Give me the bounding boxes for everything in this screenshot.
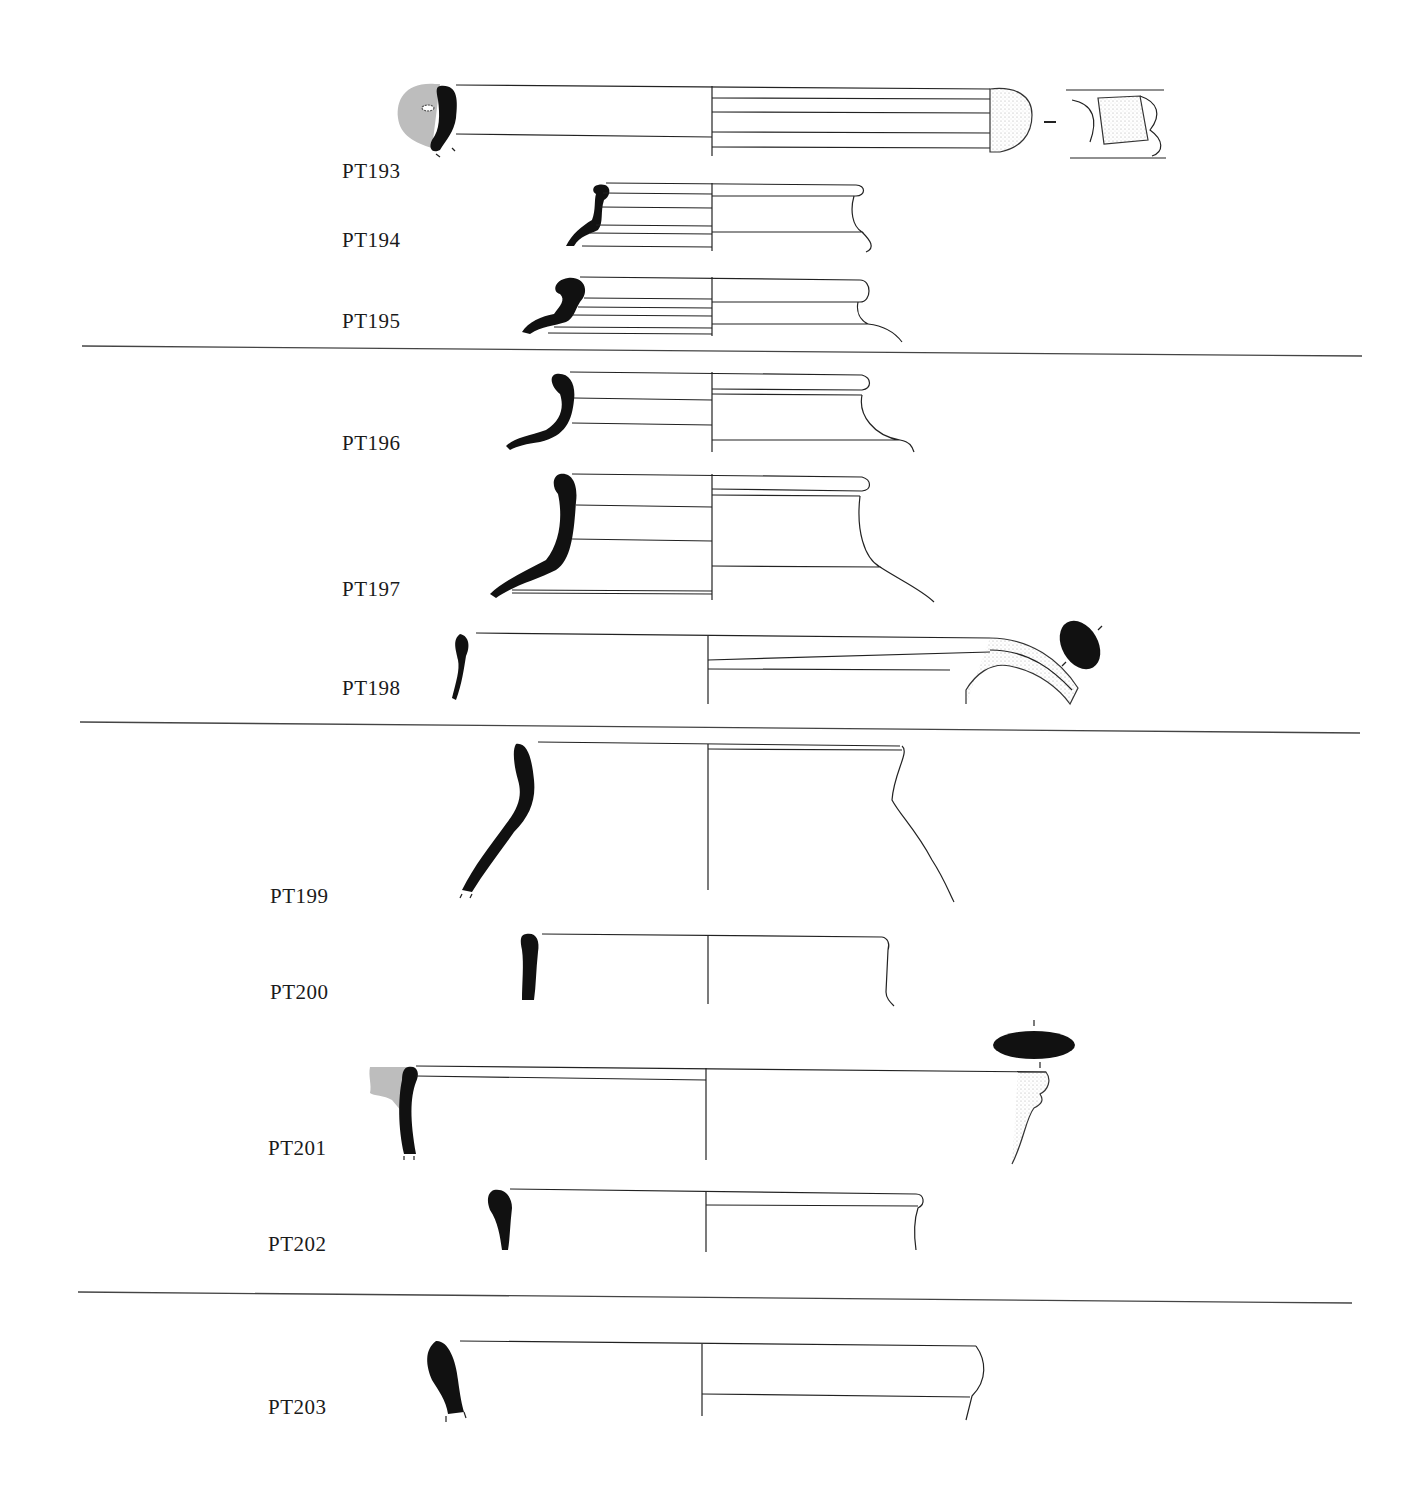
vessel-label-pt195: PT195: [342, 309, 401, 334]
vessel-label-pt200: PT200: [270, 980, 329, 1005]
vessel-label-pt197: PT197: [342, 577, 401, 602]
pottery-plate: [0, 0, 1428, 1499]
group-separator: [82, 346, 1362, 356]
vessel-label-pt202: PT202: [268, 1232, 327, 1257]
vessel-pt200: [521, 934, 894, 1006]
group-separator: [80, 722, 1360, 733]
vessel-pt193: [398, 84, 1166, 158]
group-separator: [78, 1292, 1352, 1303]
vessel-label-pt203: PT203: [268, 1395, 327, 1420]
vessel-pt202: [488, 1189, 923, 1252]
vessel-pt198: [452, 613, 1109, 704]
vessel-label-pt194: PT194: [342, 228, 401, 253]
vessel-pt203: [427, 1341, 984, 1422]
vessel-pt201: [369, 1020, 1075, 1164]
vessel-pt199: [460, 742, 954, 902]
vessel-pt194: [566, 183, 871, 252]
vessel-pt196: [506, 372, 914, 452]
vessel-label-pt196: PT196: [342, 431, 401, 456]
vessel-label-pt199: PT199: [270, 884, 329, 909]
vessel-pt197: [490, 474, 934, 602]
vessel-label-pt193: PT193: [342, 159, 401, 184]
vessel-label-pt198: PT198: [342, 676, 401, 701]
vessel-label-pt201: PT201: [268, 1136, 327, 1161]
vessel-pt195: [522, 277, 902, 342]
